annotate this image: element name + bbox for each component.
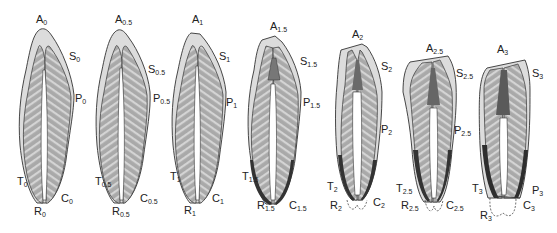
label-C-2: C2 [373, 197, 385, 209]
label-C-3: C3 [523, 200, 535, 212]
label-T-1: T1 [170, 171, 181, 183]
label-R-1: R1 [184, 205, 196, 217]
label-R-2: R2 [330, 200, 342, 212]
label-T-0: T0 [17, 176, 28, 188]
label-T-0.5: T0.5 [95, 176, 111, 188]
label-C-1.5: C1.5 [289, 200, 307, 212]
label-A-3: A3 [497, 44, 508, 56]
label-S-0: S0 [69, 51, 80, 63]
label-P-2: P2 [381, 124, 392, 136]
label-P-0: P0 [75, 93, 86, 105]
label-A-1.5: A1.5 [270, 21, 287, 33]
label-R-1.5: R1.5 [257, 200, 275, 212]
label-T-2.5: T2.5 [396, 183, 412, 195]
label-S-0.5: S0.5 [148, 64, 165, 76]
tooth-stage-3 [479, 60, 530, 216]
teeth-drawing [0, 0, 557, 233]
label-P-3: P3 [532, 185, 543, 197]
label-A-0.5: A0.5 [115, 14, 132, 26]
label-S-1: S1 [219, 51, 230, 63]
label-A-0: A0 [36, 14, 47, 26]
label-T-3: T3 [472, 183, 483, 195]
label-S-3: S3 [532, 68, 543, 80]
label-R-0: R0 [34, 206, 46, 218]
label-C-2.5: C2.5 [446, 200, 464, 212]
tooth-stage-2 [336, 44, 383, 209]
label-C-0: C0 [61, 193, 73, 205]
label-R-3: R3 [480, 210, 492, 222]
label-P-1.5: P1.5 [303, 97, 320, 109]
label-R-0.5: R0.5 [112, 206, 130, 218]
label-A-2: A2 [352, 29, 363, 41]
tooth-wear-figure: A0 S0 P0 T0 C0 R0 A0.5 S0.5 P0.5 T0.5 C0… [0, 0, 557, 233]
label-S-2: S2 [381, 61, 392, 73]
label-T-1.5: T1.5 [242, 171, 258, 183]
label-T-2: T2 [327, 181, 338, 193]
label-S-1.5: S1.5 [300, 56, 317, 68]
label-A-1: A1 [192, 14, 203, 26]
label-C-0.5: C0.5 [140, 193, 158, 205]
label-C-1: C1 [212, 193, 224, 205]
label-S-2.5: S2.5 [456, 68, 473, 80]
label-P-0.5: P0.5 [153, 93, 170, 105]
label-P-2.5: P2.5 [454, 125, 471, 137]
label-R-2.5: R2.5 [401, 200, 419, 212]
label-A-2.5: A2.5 [426, 43, 443, 55]
label-P-1: P1 [226, 97, 237, 109]
